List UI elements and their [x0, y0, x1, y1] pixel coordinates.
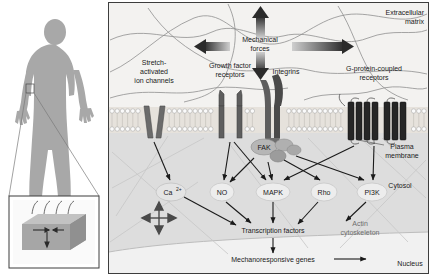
node-rho: Rho — [311, 183, 337, 201]
growth-factor-receptors-label-1: Growth factor — [209, 62, 252, 69]
no-label: NO — [217, 189, 228, 196]
cell-signalling-panel: Mechanical forces Stret — [108, 2, 429, 274]
calcium-label: Ca — [164, 189, 173, 196]
nucleus-label: Nucleus — [397, 260, 423, 267]
mapk-label: MAPK — [263, 189, 283, 196]
gpcr-label-2: receptors — [359, 74, 389, 82]
gpcr-label-1: G-protein-coupled — [346, 65, 402, 73]
transcription-factors-label: Transcription factors — [241, 227, 305, 235]
actin-cytoskeleton-label-2: cytoskeleton — [341, 229, 380, 237]
human-body-panel — [0, 0, 108, 276]
plasma-membrane-label-2: membrane — [385, 152, 419, 159]
tissue-block-inset — [9, 196, 99, 268]
mechanoresponsive-genes-label: Mechanoresponsive genes — [231, 256, 315, 264]
rho-label: Rho — [318, 189, 331, 196]
mechanical-forces-label-line2: forces — [250, 45, 270, 52]
calcium-superscript: 2+ — [176, 186, 182, 192]
node-no: NO — [210, 183, 234, 201]
plasma-membrane-label-1: Plasma — [390, 143, 413, 150]
integrins-label: Integrins — [273, 68, 300, 76]
stretch-activated-ion-channels-label-1: Stretch- — [142, 59, 167, 66]
node-calcium: Ca 2+ — [156, 183, 186, 201]
pi3k-label: PI3K — [364, 189, 380, 196]
fak-label: FAK — [257, 144, 271, 151]
stretch-activated-ion-channels-label-2: activated — [140, 68, 168, 75]
node-pi3k: PI3K — [357, 183, 387, 201]
actin-cytoskeleton-label-1: Actin — [352, 220, 368, 227]
node-mapk: MAPK — [256, 183, 290, 201]
extracellular-matrix-label-1: Extracellular — [385, 9, 424, 16]
growth-factor-receptors-label-2: receptors — [215, 71, 245, 79]
figure-root: Mechanical forces Stret — [0, 0, 431, 276]
mechanical-forces-label-line1: Mechanical — [242, 36, 278, 43]
stretch-activated-ion-channels-label-3: ion channels — [134, 77, 174, 84]
cytosol-label: Cytosol — [388, 182, 412, 190]
extracellular-matrix-label-2: matrix — [405, 18, 425, 25]
